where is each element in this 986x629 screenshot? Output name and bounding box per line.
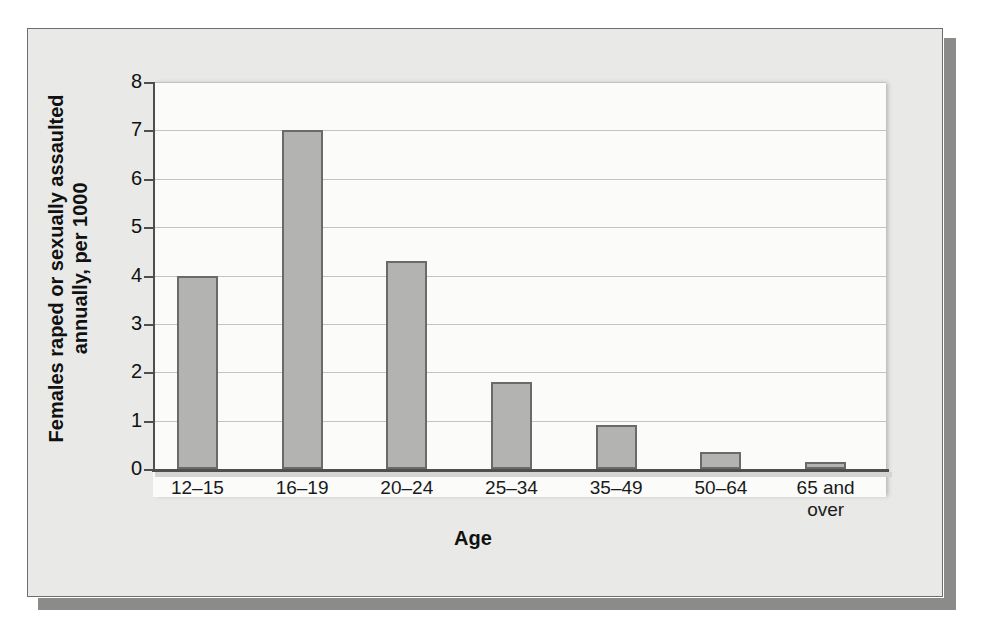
figure-card: 012345678 12–1516–1920–2425–3435–4950–64… (27, 28, 943, 597)
gridline (153, 372, 886, 373)
x-axis-tick-label: 35–49 (561, 477, 671, 499)
y-axis-tick-label: 8 (116, 71, 142, 91)
x-axis-line (152, 469, 889, 472)
gridline (153, 82, 886, 83)
x-axis-tick-label-line: 50–64 (666, 477, 776, 499)
y-axis-tick (144, 82, 153, 84)
bar (700, 452, 741, 469)
gridline (153, 324, 886, 325)
y-axis-title: Females raped or sexually assaulted annu… (44, 58, 93, 478)
y-axis-tick-label: 7 (116, 119, 142, 139)
y-axis-tick (144, 469, 153, 471)
bar (805, 462, 846, 469)
y-axis-line (153, 82, 155, 470)
gridline (153, 227, 886, 228)
bar (386, 261, 427, 469)
y-axis-title-line-2: annually, per 1000 (68, 58, 92, 478)
y-axis-tick-label: 1 (116, 410, 142, 430)
bar (596, 425, 637, 469)
y-axis-tick (144, 324, 153, 326)
y-axis-tick-label: 5 (116, 216, 142, 236)
x-axis-tick-label: 12–15 (142, 477, 252, 499)
y-axis-tick (144, 179, 153, 181)
y-axis-title-line-1: Females raped or sexually assaulted (44, 58, 68, 478)
y-axis-tick (144, 372, 153, 374)
figure-shadow-bottom (38, 598, 956, 610)
x-axis-tick-label: 50–64 (666, 477, 776, 499)
plot-area (153, 82, 886, 497)
gridline (153, 276, 886, 277)
y-axis-tick-label: 6 (116, 168, 142, 188)
x-axis-tick-label: 20–24 (352, 477, 462, 499)
gridline (153, 130, 886, 131)
y-axis-tick-label: 2 (116, 361, 142, 381)
y-axis-tick (144, 421, 153, 423)
y-axis-tick-label: 4 (116, 265, 142, 285)
y-axis-tick-labels: 012345678 (90, 29, 142, 589)
x-axis-tick-label-line: 20–24 (352, 477, 462, 499)
x-axis-tick-label-line: 16–19 (247, 477, 357, 499)
x-axis-title: Age (153, 527, 793, 550)
gridline (153, 179, 886, 180)
x-axis-tick-label-line: over (771, 499, 881, 521)
x-axis-tick-label: 25–34 (457, 477, 567, 499)
x-axis-tick-label-line: 25–34 (457, 477, 567, 499)
x-axis-tick-label: 65 andover (771, 477, 881, 521)
y-axis-tick (144, 227, 153, 229)
bar (491, 382, 532, 469)
x-axis-tick-label: 16–19 (247, 477, 357, 499)
x-axis-tick-label-line: 65 and (771, 477, 881, 499)
figure-shadow-right (944, 38, 956, 607)
y-axis-tick (144, 276, 153, 278)
y-axis-tick-label: 0 (116, 458, 142, 478)
x-axis-tick-label-line: 35–49 (561, 477, 671, 499)
plot-inner (153, 82, 886, 469)
x-axis-tick-label-line: 12–15 (142, 477, 252, 499)
y-axis-tick-label: 3 (116, 313, 142, 333)
y-axis-tick (144, 130, 153, 132)
bar (177, 276, 218, 470)
bar (282, 130, 323, 469)
